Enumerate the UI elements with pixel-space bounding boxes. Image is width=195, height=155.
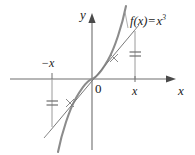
y-axis-arrow-icon (88, 13, 95, 23)
curve-label-leader-line (125, 12, 128, 28)
negative-x-tick-label: −x (41, 57, 54, 69)
y-axis-label: y (80, 8, 86, 21)
axes-group (10, 13, 176, 150)
function-argument: (x) (133, 14, 147, 28)
function-expression-label: f(x)=x3 (130, 14, 166, 28)
cubic-function-figure: y x 0 x −x f(x)=x3 (0, 0, 195, 155)
negative-drop-group (47, 73, 59, 127)
x-axis-label: x (178, 84, 184, 97)
positive-x-tick-label: x (132, 85, 137, 97)
x-axis-arrow-icon (166, 75, 176, 82)
chord-extension-lower (44, 131, 50, 138)
positive-drop-group (130, 31, 142, 82)
function-exponent: 3 (162, 13, 166, 22)
curve-label-leader-group (125, 12, 128, 28)
origin-label: 0 (95, 82, 102, 95)
